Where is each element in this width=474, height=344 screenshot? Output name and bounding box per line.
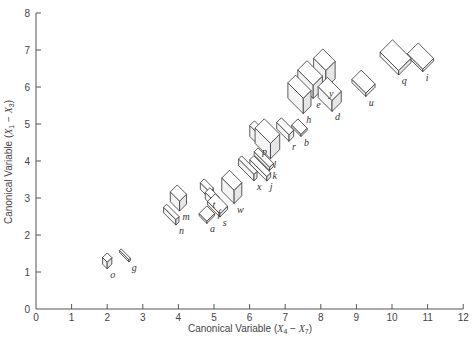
point-label-y: y xyxy=(328,88,334,99)
point-label-m: m xyxy=(183,211,190,222)
box-glyph-w xyxy=(222,170,242,203)
y-tick-label: 3 xyxy=(24,193,30,204)
point-label-w: w xyxy=(237,204,244,215)
point-label-j: j xyxy=(268,181,273,192)
point-label-s: s xyxy=(223,217,227,228)
box-glyph-o xyxy=(103,253,112,269)
y-tick-label: 7 xyxy=(24,45,30,56)
y-tick-label: 4 xyxy=(24,156,30,167)
y-tick-label: 1 xyxy=(24,267,30,278)
y-tick-label: 0 xyxy=(24,304,30,315)
point-label-d: d xyxy=(335,111,341,122)
x-tick-label: 7 xyxy=(282,312,288,323)
x-tick-label: 5 xyxy=(211,312,217,323)
x-tick-label: 1 xyxy=(69,312,75,323)
x-axis-title: Canonical Variable (X4 − X7) xyxy=(188,323,312,335)
y-axis-title: Canonical Variable (X1 − X3) xyxy=(3,100,15,224)
point-label-g: g xyxy=(132,262,137,273)
point-label-i: i xyxy=(426,72,429,83)
point-label-u: u xyxy=(369,97,374,108)
box-glyph-u xyxy=(352,70,375,96)
x-tick-label: 11 xyxy=(422,312,433,323)
point-label-p: p xyxy=(261,146,267,157)
x-tick-label: 0 xyxy=(33,312,39,323)
box-glyph-g xyxy=(120,249,131,262)
x-tick-label: 4 xyxy=(176,312,182,323)
y-tick-label: 2 xyxy=(24,230,30,241)
box-glyph-m xyxy=(170,185,186,211)
box-glyph-scatter-chart: 0123456789101112012345678 iqyeudhbrplkjx… xyxy=(0,0,474,344)
box-glyph-q xyxy=(380,40,411,75)
point-label-k: k xyxy=(273,170,278,181)
x-tick-label: 12 xyxy=(458,312,470,323)
x-tick-label: 3 xyxy=(140,312,146,323)
y-tick-label: 5 xyxy=(24,119,30,130)
x-tick-label: 6 xyxy=(247,312,253,323)
point-label-h: h xyxy=(306,114,311,125)
x-tick-label: 9 xyxy=(354,312,360,323)
x-tick-label: 2 xyxy=(104,312,110,323)
point-label-l: l xyxy=(273,159,276,170)
point-label-a: a xyxy=(210,223,215,234)
y-tick-label: 8 xyxy=(24,8,30,19)
point-label-b: b xyxy=(304,137,309,148)
point-label-n: n xyxy=(179,225,184,236)
point-label-x: x xyxy=(256,181,262,192)
x-tick-label: 8 xyxy=(318,312,324,323)
point-label-r: r xyxy=(292,141,296,152)
point-label-o: o xyxy=(110,269,115,280)
point-label-q: q xyxy=(402,75,407,86)
point-label-t: t xyxy=(213,199,216,210)
data-glyphs xyxy=(103,40,434,269)
y-tick-label: 6 xyxy=(24,82,30,93)
point-label-e: e xyxy=(316,99,321,110)
x-tick-label: 10 xyxy=(386,312,398,323)
